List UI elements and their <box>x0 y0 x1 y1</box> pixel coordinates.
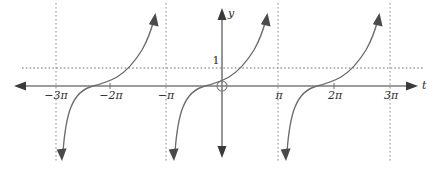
curve-arrow-middle-bottom <box>169 148 179 161</box>
y-axis-arrow-down <box>218 146 227 158</box>
t-axis-label: t <box>422 80 426 91</box>
tick-label-y-one: 1 <box>213 55 220 66</box>
tick-label-neg-2pi: −2π <box>99 90 122 101</box>
t-axis-arrow-left <box>14 82 26 91</box>
y-axis-label: y <box>228 8 234 19</box>
curve-arrow-right-top <box>373 13 383 27</box>
tick-label-neg-3pi: −3π <box>44 90 67 101</box>
curve-arrow-left-top <box>149 13 159 27</box>
curve-arrow-middle-top <box>261 13 271 27</box>
tick-label-pos-pi: π <box>275 90 282 101</box>
graph-canvas <box>0 0 438 171</box>
curve-branch-left <box>57 13 159 161</box>
y-axis-arrow-up <box>218 8 227 20</box>
tick-label-pos-2pi: 2π <box>328 90 342 101</box>
tangent-function-graph: −3π −2π −π π 2π 3π 1 t y <box>0 0 438 171</box>
asymptote-group <box>56 3 390 163</box>
curve-arrow-left-bottom <box>57 148 67 161</box>
tick-label-pos-3pi: 3π <box>384 90 398 101</box>
y-axis <box>218 8 227 158</box>
curve-branch-right <box>281 13 383 161</box>
tick-label-neg-pi: −π <box>158 90 174 101</box>
curve-arrow-right-bottom <box>281 148 291 161</box>
curve-branch-middle <box>169 13 271 161</box>
t-axis-arrow-right <box>406 82 418 91</box>
